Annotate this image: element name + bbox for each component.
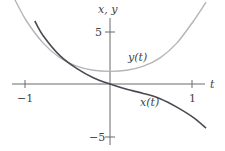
tick-label-y-neg5: −5 <box>89 131 105 144</box>
chart: x, y t 5 −5 −1 1 y(t) x(t) <box>0 0 225 151</box>
tick-label-x-1: 1 <box>189 92 196 105</box>
curve-label-y: y(t) <box>127 51 147 64</box>
tick-label-y-5: 5 <box>95 26 102 39</box>
curve-x-of-t <box>35 21 206 128</box>
tick-label-x-neg1: −1 <box>17 92 33 105</box>
y-axis-label: x, y <box>98 3 118 16</box>
plot-area: x, y t 5 −5 −1 1 y(t) x(t) <box>0 0 225 151</box>
x-axis-label: t <box>210 78 215 91</box>
curve-label-x: x(t) <box>140 96 159 109</box>
